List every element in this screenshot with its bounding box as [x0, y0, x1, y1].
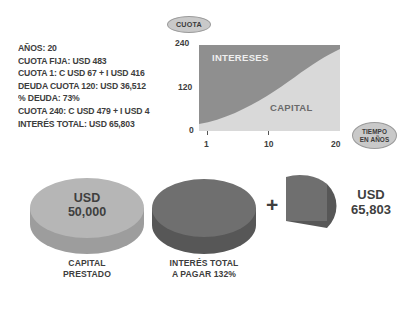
y-axis-badge-label: CUOTA [176, 20, 202, 29]
series-label-capital: CAPITAL [270, 102, 313, 113]
plus-sign: + [266, 194, 278, 215]
interes-disc-svg [150, 170, 258, 254]
fact-interes-total: INTERÉS TOTAL: USD 65,803 [18, 118, 168, 131]
x-tick-20: 20 [331, 139, 340, 149]
fact-deuda-cuota-120: DEUDA CUOTA 120: USD 36,512 [18, 80, 168, 93]
interes-disc [150, 170, 258, 254]
y-tick-120: 120 [178, 82, 192, 92]
fact-porcentaje-deuda: % DEUDA: 73% [18, 92, 168, 105]
fact-anos: AÑOS: 20 [18, 42, 168, 55]
fact-cuota-240: CUOTA 240: C USD 479 + I USD 4 [18, 105, 168, 118]
y-tick-0: 0 [189, 125, 194, 135]
interes-wedge-svg [283, 174, 337, 238]
series-label-intereses: INTERESES [212, 52, 269, 63]
x-tick-10: 10 [264, 139, 273, 149]
y-tick-240: 240 [175, 38, 189, 48]
interes-wedge-slice [283, 174, 337, 238]
x-tick-mark-10 [268, 131, 269, 135]
x-tick-mark-1 [207, 131, 208, 135]
capital-disc-caption: CAPITAL PRESTADO [28, 258, 146, 280]
fact-cuota-fija: CUOTA FIJA: USD 483 [18, 55, 168, 68]
loan-summary-fact-list: AÑOS: 20 CUOTA FIJA: USD 483 CUOTA 1: C … [18, 42, 178, 130]
x-axis-badge: TIEMPO EN AÑOS [352, 122, 397, 149]
capital-disc: USD 50,000 [28, 170, 146, 254]
x-axis-badge-label-line1: TIEMPO [362, 128, 387, 136]
x-axis-badge-label-line2: EN AÑOS [360, 136, 390, 144]
disc-comparison-section: USD 50,000 CAPITAL PRESTADO INTERÉS TOTA… [0, 162, 403, 324]
total-interest-value: USD 65,803 [341, 188, 401, 217]
infographic-root: AÑOS: 20 CUOTA FIJA: USD 483 CUOTA 1: C … [0, 0, 403, 324]
y-axis-badge: CUOTA [167, 16, 211, 33]
capital-disc-value: USD 50,000 [28, 192, 146, 219]
fact-cuota-1: CUOTA 1: C USD 67 + I USD 416 [18, 67, 168, 80]
x-tick-1: 1 [204, 139, 209, 149]
interes-disc-caption: INTERÉS TOTAL A PAGAR 132% [144, 258, 264, 280]
amortization-area-chart: CUOTA TIEMPO EN AÑOS INTERESES CAPITAL 2… [160, 12, 403, 160]
